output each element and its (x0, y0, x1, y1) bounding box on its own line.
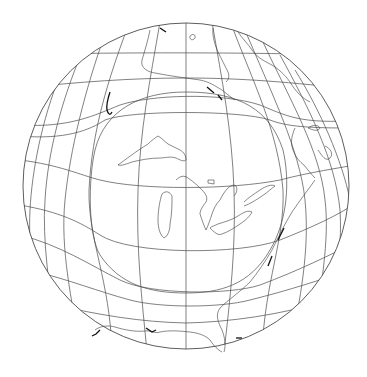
chesapeake-detail (268, 228, 284, 266)
parallel (20, 113, 360, 137)
texas-coast-detail (92, 330, 100, 336)
hudson-bay-coast (142, 30, 235, 100)
lake-michigan (158, 192, 172, 238)
lake-ontario (244, 185, 275, 206)
lake-huron (176, 176, 237, 230)
meridian (44, 52, 82, 330)
mississippi-delta (146, 328, 156, 332)
meridian (30, 75, 60, 300)
parallel (20, 160, 360, 188)
lake-superior (118, 136, 186, 165)
coastlines (92, 28, 332, 352)
parallel (20, 53, 360, 56)
georgian-bay-island (208, 180, 214, 184)
parallel (20, 200, 360, 251)
atlantic-coast (217, 180, 315, 352)
meridian (232, 26, 283, 352)
inner-circle (90, 92, 286, 293)
meridian (245, 30, 306, 350)
arctic-island (190, 35, 195, 40)
lake-erie (210, 211, 252, 234)
meridian (89, 26, 128, 352)
great-lakes (118, 136, 275, 238)
parallel (55, 300, 330, 323)
james-bay-island (107, 92, 112, 114)
graticule (20, 20, 360, 352)
meridian (295, 70, 350, 200)
map-canvas (0, 0, 367, 377)
baffin-coast (160, 28, 166, 32)
